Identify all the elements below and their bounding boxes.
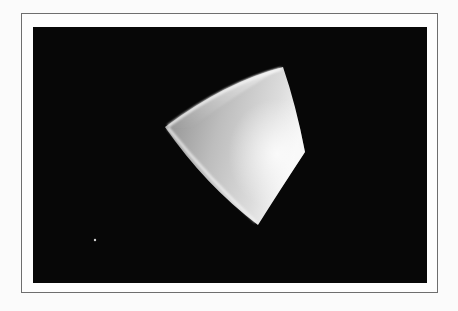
render-viewport (33, 27, 427, 283)
speck (94, 239, 96, 241)
solid-body (165, 67, 305, 225)
rendered-solid (33, 27, 427, 283)
